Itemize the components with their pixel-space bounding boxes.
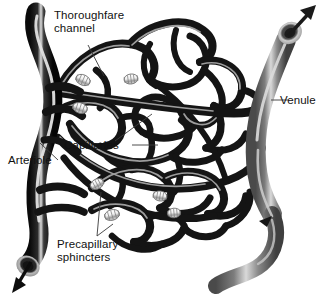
label-arteriole: Arteriole [8, 154, 52, 167]
label-precapillary-sphincters: Precapillary sphincters [57, 238, 118, 263]
label-capillaries: Capillaries [64, 139, 119, 152]
label-thoroughfare-channel: Thoroughfare channel [54, 9, 124, 34]
label-venule: Venule [280, 94, 316, 107]
capillary-bed-illustration [0, 0, 328, 296]
capillary-bed-figure: Thoroughfare channel Venule Capillaries … [0, 0, 328, 296]
